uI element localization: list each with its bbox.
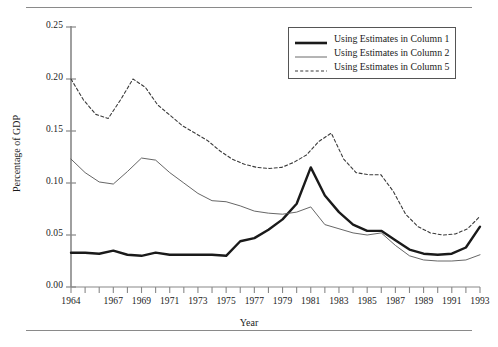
y-axis-title: Percentage of GDP bbox=[11, 94, 22, 214]
series-line bbox=[71, 79, 480, 235]
y-axis-tick-label: 0.20 bbox=[19, 72, 63, 82]
series-line bbox=[71, 158, 480, 261]
y-axis-tick-label: 0.05 bbox=[19, 228, 63, 238]
legend-item: Using Estimates in Column 1 bbox=[294, 32, 449, 46]
legend-item: Using Estimates in Column 2 bbox=[294, 46, 449, 60]
legend-item: Using Estimates in Column 5 bbox=[294, 60, 449, 74]
y-axis-tick-label: 0.00 bbox=[19, 280, 63, 290]
series-line bbox=[71, 167, 480, 255]
legend-item-label: Using Estimates in Column 5 bbox=[334, 61, 449, 73]
legend-swatch-dashed-icon bbox=[294, 62, 328, 72]
x-axis-title: Year bbox=[0, 317, 498, 328]
y-axis-tick-label: 0.10 bbox=[19, 176, 63, 186]
legend-swatch-solid-thick-icon bbox=[294, 34, 328, 44]
x-axis-tick-label: 1993 bbox=[463, 296, 497, 306]
y-axis-tick-label: 0.15 bbox=[19, 124, 63, 134]
legend-swatch-solid-thin-icon bbox=[294, 48, 328, 58]
legend-item-label: Using Estimates in Column 2 bbox=[334, 47, 449, 59]
series-group bbox=[71, 79, 480, 261]
legend-item-label: Using Estimates in Column 1 bbox=[334, 33, 449, 45]
figure-container: 0.000.050.100.150.200.25 196419671969197… bbox=[0, 0, 498, 347]
chart-legend: Using Estimates in Column 1 Using Estima… bbox=[288, 27, 456, 79]
x-axis-tick-label: 1964 bbox=[54, 296, 88, 306]
y-axis-tick-label: 0.25 bbox=[19, 20, 63, 30]
